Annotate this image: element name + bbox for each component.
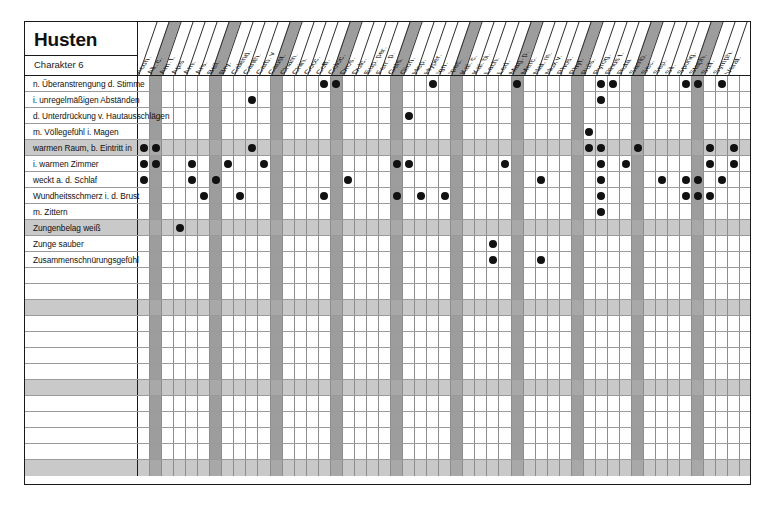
table-cell[interactable] (138, 380, 150, 395)
table-cell[interactable] (512, 92, 524, 107)
table-cell[interactable] (632, 332, 644, 347)
table-cell[interactable] (680, 428, 692, 443)
table-cell[interactable] (343, 428, 355, 443)
table-cell[interactable] (704, 332, 716, 347)
table-cell[interactable] (536, 92, 548, 107)
table-cell[interactable] (343, 220, 355, 235)
table-cell[interactable] (427, 172, 439, 187)
table-cell[interactable] (487, 364, 499, 379)
table-cell[interactable] (174, 220, 186, 235)
table-cell[interactable] (186, 76, 198, 91)
table-cell[interactable] (500, 252, 512, 267)
table-cell[interactable] (728, 412, 740, 427)
table-cell[interactable] (512, 300, 524, 315)
table-cell[interactable] (704, 220, 716, 235)
table-cell[interactable] (403, 300, 415, 315)
table-row[interactable]: m. Zittern (25, 204, 750, 220)
table-cell[interactable] (271, 124, 283, 139)
table-cell[interactable] (379, 268, 391, 283)
table-row[interactable] (25, 396, 750, 412)
table-cell[interactable] (668, 300, 680, 315)
table-cell[interactable] (500, 76, 512, 91)
table-cell[interactable] (379, 332, 391, 347)
table-cell[interactable] (500, 140, 512, 155)
table-cell[interactable] (572, 220, 584, 235)
table-cell[interactable] (162, 380, 174, 395)
table-cell[interactable] (644, 284, 656, 299)
table-cell[interactable] (319, 300, 331, 315)
table-cell[interactable] (608, 300, 620, 315)
table-cell[interactable] (644, 428, 656, 443)
table-cell[interactable] (439, 220, 451, 235)
table-row[interactable]: warmen Raum, b. Eintritt in (25, 140, 750, 156)
table-cell[interactable] (451, 140, 463, 155)
table-row[interactable] (25, 380, 750, 396)
table-cell[interactable] (246, 444, 258, 459)
table-cell[interactable] (512, 124, 524, 139)
table-cell[interactable] (692, 300, 704, 315)
table-cell[interactable] (475, 220, 487, 235)
table-cell[interactable] (620, 92, 632, 107)
table-cell[interactable] (716, 108, 728, 123)
table-cell[interactable] (415, 140, 427, 155)
table-cell[interactable] (572, 204, 584, 219)
table-cell[interactable] (620, 204, 632, 219)
table-cell[interactable] (512, 332, 524, 347)
table-cell[interactable] (150, 236, 162, 251)
table-cell[interactable] (487, 380, 499, 395)
table-cell[interactable] (150, 364, 162, 379)
table-cell[interactable] (198, 204, 210, 219)
table-cell[interactable] (259, 220, 271, 235)
table-cell[interactable] (572, 188, 584, 203)
table-cell[interactable] (620, 284, 632, 299)
table-cell[interactable] (608, 316, 620, 331)
table-cell[interactable] (716, 460, 728, 476)
table-cell[interactable] (632, 364, 644, 379)
table-cell[interactable] (415, 380, 427, 395)
table-cell[interactable] (234, 332, 246, 347)
table-cell[interactable] (451, 332, 463, 347)
table-cell[interactable] (451, 428, 463, 443)
table-cell[interactable] (560, 204, 572, 219)
table-cell[interactable] (656, 460, 668, 476)
table-cell[interactable] (608, 412, 620, 427)
table-cell[interactable] (198, 156, 210, 171)
table-cell[interactable] (246, 172, 258, 187)
table-cell[interactable] (174, 348, 186, 363)
table-cell[interactable] (427, 140, 439, 155)
table-cell[interactable] (427, 428, 439, 443)
table-cell[interactable] (210, 412, 222, 427)
table-cell[interactable] (295, 204, 307, 219)
table-cell[interactable] (463, 236, 475, 251)
table-cell[interactable] (210, 284, 222, 299)
table-cell[interactable] (379, 428, 391, 443)
table-cell[interactable] (174, 300, 186, 315)
table-cell[interactable] (680, 92, 692, 107)
table-cell[interactable] (186, 364, 198, 379)
table-cell[interactable] (222, 332, 234, 347)
table-cell[interactable] (487, 76, 499, 91)
table-cell[interactable] (524, 236, 536, 251)
table-cell[interactable] (198, 188, 210, 203)
table-cell[interactable] (716, 316, 728, 331)
table-cell[interactable] (391, 156, 403, 171)
table-cell[interactable] (524, 140, 536, 155)
table-cell[interactable] (680, 284, 692, 299)
table-cell[interactable] (487, 348, 499, 363)
table-cell[interactable] (174, 252, 186, 267)
table-cell[interactable] (584, 332, 596, 347)
table-cell[interactable] (427, 204, 439, 219)
table-cell[interactable] (295, 348, 307, 363)
table-cell[interactable] (415, 428, 427, 443)
table-cell[interactable] (379, 204, 391, 219)
table-row[interactable]: Wundheitsschmerz i. d. Brust (25, 188, 750, 204)
table-cell[interactable] (295, 460, 307, 476)
table-cell[interactable] (608, 124, 620, 139)
table-cell[interactable] (186, 316, 198, 331)
table-cell[interactable] (246, 396, 258, 411)
table-cell[interactable] (487, 444, 499, 459)
table-cell[interactable] (704, 348, 716, 363)
table-cell[interactable] (632, 428, 644, 443)
table-cell[interactable] (222, 172, 234, 187)
table-cell[interactable] (584, 268, 596, 283)
